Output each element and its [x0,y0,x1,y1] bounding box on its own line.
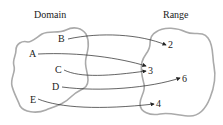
mapping-arrow-d-6 [62,78,180,89]
domain-element-c: C [55,64,62,75]
domain-set-outline [12,28,89,112]
range-element-3: 3 [148,65,153,76]
range-element-2: 2 [168,39,173,50]
function-mapping-diagram: Domain Range A B C D E 2 3 6 4 [0,0,223,125]
range-element-4: 4 [156,98,161,109]
domain-element-d: D [52,81,59,92]
mapping-arrow-c-3 [64,70,146,75]
range-title: Range [163,9,189,20]
domain-element-a: A [29,48,37,59]
domain-element-b: B [58,33,65,44]
diagram-canvas: Domain Range A B C D E 2 3 6 4 [0,0,223,125]
range-element-6: 6 [182,73,187,84]
domain-title: Domain [34,9,66,20]
domain-element-e: E [30,94,36,105]
